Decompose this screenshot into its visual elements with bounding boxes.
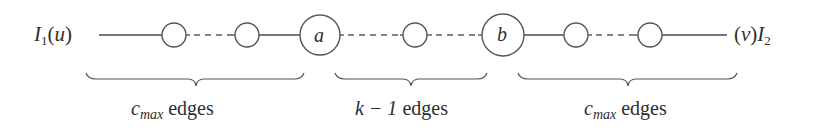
node-n2 [235, 23, 259, 47]
brace-middle [335, 73, 487, 86]
right-paren-open: ( [734, 22, 741, 46]
node-n4 [564, 23, 588, 47]
left-paren-open: ( [48, 22, 55, 46]
brace-middle-word: edges [402, 97, 448, 119]
brace-right-subscript: max [593, 107, 616, 122]
left-terminal-label: I1(u) [34, 24, 72, 47]
left-paren-close: ) [65, 22, 72, 46]
brace-middle-label: k − 1 edges [355, 98, 448, 118]
brace-left-subscript: max [140, 107, 163, 122]
brace-right-label: cmax edges [584, 98, 667, 122]
brace-right [518, 73, 737, 86]
brace-right-word: edges [621, 97, 667, 119]
right-terminal-label: (v)I2 [734, 24, 771, 47]
left-vertex: u [55, 22, 66, 46]
node-b-label: b [497, 24, 507, 44]
left-set-symbol: I [34, 22, 41, 46]
right-set-subscript: 2 [764, 33, 771, 48]
node-a-label: a [314, 25, 324, 45]
brace-left-label: cmax edges [131, 98, 214, 122]
brace-left-math: c [131, 97, 140, 119]
node-n3 [403, 23, 427, 47]
right-vertex: v [741, 22, 750, 46]
nodes [162, 14, 662, 56]
braces [86, 73, 737, 86]
brace-right-math: c [584, 97, 593, 119]
node-n5 [638, 23, 662, 47]
brace-middle-math: k − 1 [355, 97, 397, 119]
brace-left-word: edges [168, 97, 214, 119]
brace-left [86, 73, 304, 86]
node-n1 [162, 23, 186, 47]
